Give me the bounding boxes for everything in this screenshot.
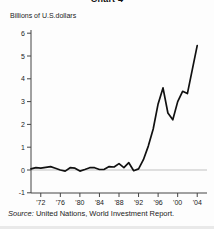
page-edge-shadow — [0, 226, 214, 229]
y-tick-label: -1 — [19, 189, 25, 196]
y-tick-label: 1 — [21, 144, 25, 151]
x-tick-label: '92 — [134, 199, 143, 206]
y-tick-label: 5 — [21, 53, 25, 60]
x-tick-label: '00 — [173, 199, 182, 206]
chart-page: Chart 4 Billions of U.S.dollars 6543210-… — [0, 0, 214, 229]
x-tick-label: '88 — [114, 199, 123, 206]
source-text: United Nations, World Investment Report. — [34, 209, 174, 218]
x-tick-label: '72 — [36, 199, 45, 206]
y-tick-label: 4 — [21, 75, 25, 82]
y-tick-label: 2 — [21, 121, 25, 128]
source-label: Source: — [8, 209, 34, 218]
x-tick-label: '96 — [154, 199, 163, 206]
source-line: Source: United Nations, World Investment… — [8, 209, 174, 218]
y-tick-label: 3 — [21, 98, 25, 105]
y-tick-label: 0 — [21, 167, 25, 174]
y-tick-label: 6 — [21, 30, 25, 37]
x-tick-label: '84 — [95, 199, 104, 206]
data-line-series — [31, 46, 197, 171]
x-tick-label: '80 — [75, 199, 84, 206]
line-chart: 6543210-1'72'76'80'84'88'92'96'00'04 — [0, 0, 214, 229]
x-tick-label: '04 — [193, 199, 202, 206]
x-tick-label: '76 — [56, 199, 65, 206]
